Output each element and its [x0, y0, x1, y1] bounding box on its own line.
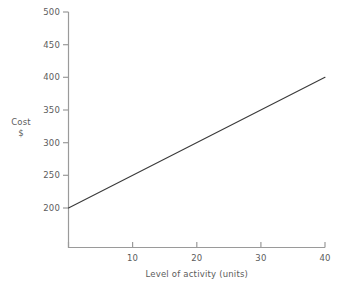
y-axis-title-line1: Cost: [11, 117, 31, 127]
x-axis-title: Level of activity (units): [145, 269, 248, 279]
y-axis-title-line2: $: [18, 128, 24, 138]
y-tick-label-450: 450: [38, 40, 60, 50]
x-tick-label-40: 40: [319, 253, 330, 263]
y-axis-ticks: [63, 12, 69, 208]
x-tick-label-20: 20: [191, 253, 202, 263]
series-total-cost-line: [69, 77, 326, 208]
y-axis-title: Cost $: [4, 117, 38, 138]
x-tick-label-10: 10: [127, 253, 138, 263]
x-axis-ticks: [69, 242, 326, 248]
y-tick-label-200: 200: [38, 203, 60, 213]
cost-behaviour-line-chart: 500 450 400 350 300 250 200 10 20 30 40 …: [0, 0, 341, 290]
y-tick-label-400: 400: [38, 72, 60, 82]
x-tick-label-30: 30: [255, 253, 266, 263]
y-tick-label-500: 500: [38, 7, 60, 17]
y-tick-label-250: 250: [38, 170, 60, 180]
y-tick-label-300: 300: [38, 138, 60, 148]
y-tick-label-350: 350: [38, 105, 60, 115]
